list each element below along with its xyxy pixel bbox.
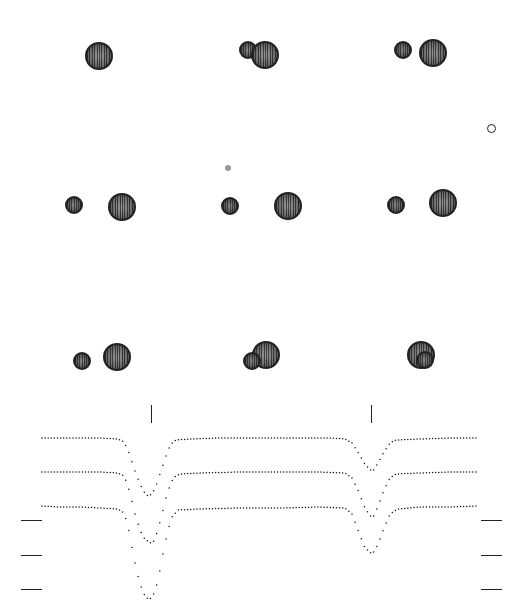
right-offset-tick-3 bbox=[481, 589, 502, 590]
right-offset-tick-2 bbox=[481, 555, 502, 556]
secondary-star-icon bbox=[243, 352, 261, 370]
left-offset-tick-3 bbox=[21, 589, 42, 590]
light-curves-plot bbox=[0, 0, 524, 607]
right-offset-tick-1 bbox=[481, 520, 502, 521]
primary-star-icon bbox=[251, 41, 279, 69]
eclipse-tick-1 bbox=[151, 405, 152, 423]
left-offset-tick-2 bbox=[21, 555, 42, 556]
secondary-star-icon bbox=[416, 351, 434, 369]
light-curve-1 bbox=[41, 437, 477, 496]
binary-star-eclipse-figure bbox=[0, 0, 524, 607]
eclipse-tick-2 bbox=[371, 405, 372, 423]
left-offset-tick-1 bbox=[21, 520, 42, 521]
light-curve-3 bbox=[41, 505, 477, 599]
